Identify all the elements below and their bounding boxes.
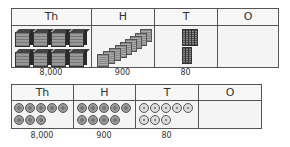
thousand-cube-icon — [15, 32, 30, 47]
bottom-table-body — [12, 100, 261, 128]
thousands-cell — [12, 25, 92, 67]
thousand-counter-icon — [14, 103, 24, 113]
hundred-counter-icon — [77, 103, 87, 113]
hundred-counter-icon — [110, 115, 120, 125]
thousand-counter-icon — [36, 115, 46, 125]
header-tens: T — [155, 9, 218, 25]
thousand-counter-icon — [36, 103, 46, 113]
header-thousands: Th — [12, 9, 92, 25]
top-table-body — [12, 25, 278, 67]
thousand-counter-icon — [25, 103, 35, 113]
header-hundreds: H — [92, 9, 155, 25]
header-ones: O — [199, 85, 261, 100]
ten-rod-icon — [188, 47, 192, 64]
ten-counter-icon — [139, 103, 149, 113]
top-table-header: Th H T O — [12, 9, 278, 26]
thousand-cube-icon — [69, 52, 84, 67]
thousand-cube-icon — [69, 32, 84, 47]
ten-counter-icon — [172, 103, 182, 113]
thousands-counter-cell — [12, 100, 74, 128]
ten-counter-icon — [150, 103, 160, 113]
hundred-counter-icon — [99, 103, 109, 113]
ten-counter-icon — [161, 115, 171, 125]
thousand-cube-icon — [33, 32, 48, 47]
thousands-value-label: 8,000 — [11, 131, 73, 140]
thousand-counter-icon — [47, 103, 57, 113]
ones-cell — [218, 25, 278, 67]
ten-counter-icon — [150, 115, 160, 125]
ones-counter-cell — [199, 100, 261, 128]
thousand-counter-icon — [14, 115, 24, 125]
tens-value-label: 80 — [154, 68, 217, 77]
thousand-cube-icon — [15, 52, 30, 67]
hundred-counter-icon — [121, 103, 131, 113]
hundreds-value-label: 900 — [73, 131, 135, 140]
header-tens: T — [136, 85, 199, 100]
hundred-counter-icon — [77, 115, 87, 125]
hundred-counter-icon — [110, 103, 120, 113]
top-place-value-table: Th H T O — [11, 8, 279, 68]
header-hundreds: H — [74, 85, 136, 100]
ten-rod-icon — [194, 29, 198, 46]
hundreds-cell — [92, 25, 155, 67]
ten-counter-icon — [161, 103, 171, 113]
hundred-counter-icon — [99, 115, 109, 125]
bottom-place-value-table: Th H T O — [11, 84, 262, 129]
thousand-cube-icon — [51, 32, 66, 47]
tens-cell — [155, 25, 218, 67]
tens-counter-cell — [136, 100, 199, 128]
thousands-value-label: 8,000 — [11, 68, 91, 77]
hundreds-counter-cell — [74, 100, 136, 128]
hundred-flat-icon — [97, 54, 109, 67]
thousand-counter-icon — [58, 103, 68, 113]
tens-value-label: 80 — [135, 131, 198, 140]
ten-counter-icon — [139, 115, 149, 125]
hundred-counter-icon — [88, 103, 98, 113]
header-thousands: Th — [12, 85, 74, 100]
header-ones: O — [218, 9, 278, 25]
hundreds-value-label: 900 — [91, 68, 154, 77]
thousand-cube-icon — [51, 52, 66, 67]
thousand-counter-icon — [25, 115, 35, 125]
bottom-table-header: Th H T O — [12, 85, 261, 101]
ten-counter-icon — [183, 103, 193, 113]
thousand-cube-icon — [33, 52, 48, 67]
hundred-counter-icon — [88, 115, 98, 125]
